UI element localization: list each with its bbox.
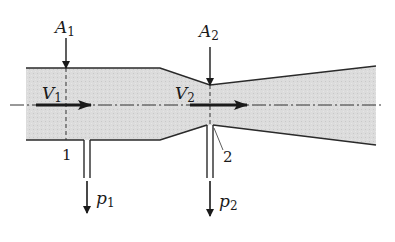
area-2-label: A2 [197, 21, 219, 43]
pressure-1-label: p1 [96, 188, 115, 210]
pressure-tap-2 [207, 125, 213, 178]
section-1-label: 1 [62, 146, 72, 164]
venturi-diagram: A1 A2 V1 V2 1 2 p1 p2 [0, 0, 395, 242]
area-1-label: A1 [53, 17, 75, 39]
pressure-2-label: p2 [219, 191, 238, 213]
pressure-tap-1 [84, 140, 90, 178]
section-2-label: 2 [223, 148, 233, 166]
section-2-leader [214, 128, 223, 150]
